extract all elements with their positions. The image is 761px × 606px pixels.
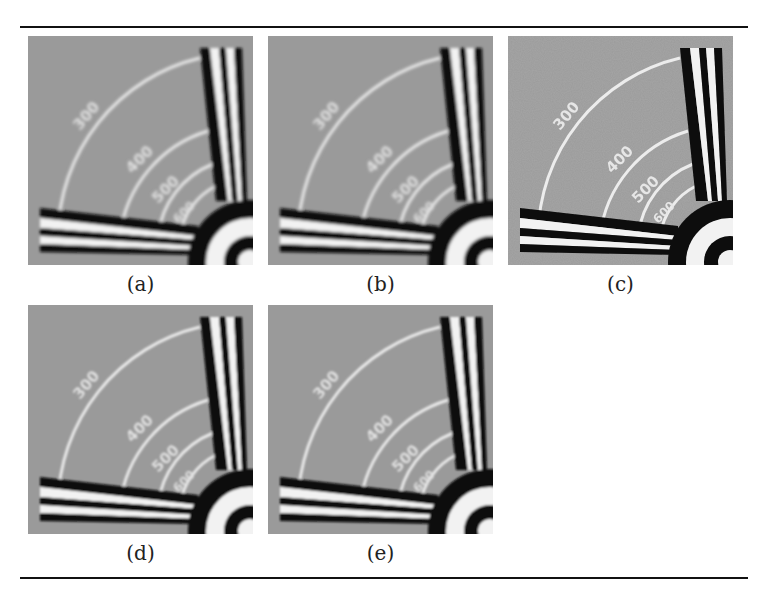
panel-b-image: 300 400 500 600: [268, 36, 493, 265]
label-300: 300: [309, 98, 343, 134]
panel-c-image: 300 400 500 600: [508, 36, 733, 265]
label-500: 500: [388, 172, 423, 207]
resolution-chart-b: 300 400 500 600: [268, 36, 493, 265]
resolution-chart-c: 300 400 500 600: [508, 36, 733, 265]
caption-a: (a): [28, 272, 253, 296]
panel-d-image: 300 400 500 600: [28, 305, 253, 534]
resolution-chart-d: 300 400 500 600: [28, 305, 253, 534]
bottom-rule: [20, 577, 748, 579]
label-300: 300: [69, 98, 103, 134]
top-rule: [20, 26, 748, 28]
label-300: 300: [69, 367, 103, 403]
caption-c: (c): [508, 272, 733, 296]
label-400: 400: [362, 142, 397, 177]
caption-d: (d): [28, 541, 253, 565]
label-300: 300: [309, 367, 343, 403]
panel-a-image: 300 400 500 600: [28, 36, 253, 265]
label-400: 400: [362, 411, 397, 446]
caption-e: (e): [268, 541, 493, 565]
label-500: 500: [148, 172, 183, 207]
resolution-chart-a: 300 400 500 600: [28, 36, 253, 265]
label-500: 500: [148, 441, 183, 476]
label-400: 400: [122, 142, 157, 177]
resolution-chart-e: 300 400 500 600: [268, 305, 493, 534]
label-500: 500: [388, 441, 423, 476]
panel-e-image: 300 400 500 600: [268, 305, 493, 534]
caption-b: (b): [268, 272, 493, 296]
label-400: 400: [122, 411, 157, 446]
